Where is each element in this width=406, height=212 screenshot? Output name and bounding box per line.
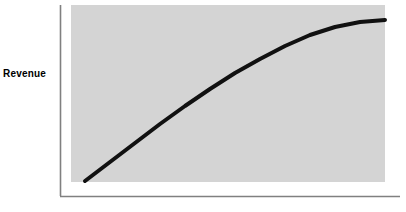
revenue-growth-chart: Revenue <box>0 0 406 212</box>
plot-area <box>0 0 406 212</box>
